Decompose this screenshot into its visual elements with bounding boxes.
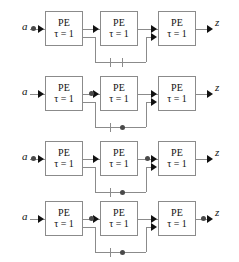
- pe-name-r3-s2: PE: [113, 148, 125, 159]
- pe-box-r2-s2: PEτ = 1: [100, 76, 138, 111]
- feedback-down-wire-3: [95, 167, 96, 192]
- junction-dot-s2s3-3: [145, 156, 150, 161]
- feedback-up-wire-3: [146, 167, 147, 192]
- pe-name-r3-s3: PE: [171, 148, 183, 159]
- feedback-tick-a-2: [110, 123, 111, 132]
- feedback-out-wire-4: [83, 227, 95, 228]
- feedback-tick-a-4: [110, 248, 111, 257]
- output-arrowhead-1: [207, 25, 213, 33]
- feedback-out-wire-2: [83, 102, 95, 103]
- output-wire-3: [196, 159, 207, 160]
- input-arrowhead-2: [38, 90, 44, 98]
- feedback-out-wire-1: [83, 37, 95, 38]
- junction-dot-input-1: [31, 26, 36, 31]
- pe-box-r2-s3: PEτ = 1: [158, 76, 196, 111]
- output-label-3: z: [215, 146, 219, 158]
- junction-dot-feedback-2: [120, 125, 125, 130]
- input-label-3: a: [22, 150, 28, 162]
- pipeline-block-diagram: aPEτ = 1PEτ = 1PEτ = 1zaPEτ = 1PEτ = 1PE…: [0, 0, 239, 262]
- pe-delay-r3-s3: τ = 1: [167, 159, 187, 170]
- output-label-2: z: [215, 81, 219, 93]
- pe-box-r4-s2: PEτ = 1: [100, 201, 138, 236]
- pe-name-r4-s2: PE: [113, 208, 125, 219]
- pe-delay-r1-s1: τ = 1: [54, 29, 74, 40]
- pe-delay-r4-s3: τ = 1: [167, 219, 187, 230]
- pe-name-r3-s1: PE: [58, 148, 70, 159]
- pe-name-r2-s3: PE: [171, 83, 183, 94]
- output-arrowhead-2: [207, 90, 213, 98]
- junction-dot-output-4: [201, 216, 206, 221]
- pe-name-r2-s2: PE: [113, 83, 125, 94]
- link-arrowhead-s1s2-4: [93, 215, 99, 223]
- pe-delay-r4-s2: τ = 1: [109, 219, 129, 230]
- pe-name-r2-s1: PE: [58, 83, 70, 94]
- feedback-arrowhead-2: [151, 98, 157, 106]
- input-arrowhead-3: [38, 155, 44, 163]
- pe-delay-r2-s1: τ = 1: [54, 94, 74, 105]
- output-arrowhead-4: [207, 215, 213, 223]
- feedback-down-wire-4: [95, 227, 96, 252]
- input-arrowhead-4: [38, 215, 44, 223]
- input-label-2: a: [22, 85, 28, 97]
- pe-delay-r4-s1: τ = 1: [54, 219, 74, 230]
- pe-name-r4-s1: PE: [58, 208, 70, 219]
- pe-name-r1-s2: PE: [113, 18, 125, 29]
- pe-delay-r2-s3: τ = 1: [167, 94, 187, 105]
- pe-box-r1-s2: PEτ = 1: [100, 11, 138, 46]
- link-arrowhead-s2s3-4: [151, 215, 157, 223]
- junction-dot-s1s2-2: [89, 91, 94, 96]
- feedback-arrowhead-4: [151, 223, 157, 231]
- output-wire-2: [196, 94, 207, 95]
- row-3: aPEτ = 1PEτ = 1PEτ = 1z: [0, 136, 239, 201]
- pe-delay-r1-s2: τ = 1: [109, 29, 129, 40]
- pe-box-r3-s3: PEτ = 1: [158, 141, 196, 176]
- feedback-tick-a-1: [110, 58, 111, 67]
- feedback-tick-b-1: [122, 58, 123, 67]
- row-2: aPEτ = 1PEτ = 1PEτ = 1z: [0, 71, 239, 136]
- pe-box-r2-s1: PEτ = 1: [45, 76, 83, 111]
- feedback-down-wire-2: [95, 102, 96, 127]
- output-arrowhead-3: [207, 155, 213, 163]
- feedback-up-wire-4: [146, 227, 147, 252]
- link-arrowhead-s2s3-1: [151, 25, 157, 33]
- output-label-4: z: [215, 206, 219, 218]
- input-label-4: a: [22, 210, 28, 222]
- row-1: aPEτ = 1PEτ = 1PEτ = 1z: [0, 6, 239, 71]
- pe-box-r4-s3: PEτ = 1: [158, 201, 196, 236]
- output-label-1: z: [215, 16, 219, 28]
- feedback-up-wire-1: [146, 37, 147, 62]
- junction-dot-feedback-3: [120, 190, 125, 195]
- pe-box-r3-s1: PEτ = 1: [45, 141, 83, 176]
- feedback-down-wire-1: [95, 37, 96, 62]
- feedback-up-wire-2: [146, 102, 147, 127]
- pe-name-r1-s1: PE: [58, 18, 70, 29]
- link-arrowhead-s2s3-2: [151, 90, 157, 98]
- link-arrowhead-s2s3-3: [151, 155, 157, 163]
- row-4: aPEτ = 1PEτ = 1PEτ = 1z: [0, 196, 239, 261]
- feedback-bus-wire-1: [95, 62, 146, 63]
- pe-box-r3-s2: PEτ = 1: [100, 141, 138, 176]
- link-arrowhead-s1s2-3: [93, 155, 99, 163]
- pe-box-r1-s1: PEτ = 1: [45, 11, 83, 46]
- output-wire-1: [196, 29, 207, 30]
- pe-delay-r3-s2: τ = 1: [109, 159, 129, 170]
- pe-name-r1-s3: PE: [171, 18, 183, 29]
- pe-delay-r3-s1: τ = 1: [54, 159, 74, 170]
- junction-dot-input-3: [31, 156, 36, 161]
- junction-dot-s1s2-4: [89, 216, 94, 221]
- pe-name-r4-s3: PE: [171, 208, 183, 219]
- pe-delay-r2-s2: τ = 1: [109, 94, 129, 105]
- junction-dot-feedback-4: [120, 250, 125, 255]
- pe-box-r1-s3: PEτ = 1: [158, 11, 196, 46]
- link-arrowhead-s1s2-1: [93, 25, 99, 33]
- feedback-arrowhead-3: [151, 163, 157, 171]
- pe-delay-r1-s3: τ = 1: [167, 29, 187, 40]
- link-arrowhead-s1s2-2: [93, 90, 99, 98]
- input-arrowhead-1: [38, 25, 44, 33]
- feedback-arrowhead-1: [151, 33, 157, 41]
- pe-box-r4-s1: PEτ = 1: [45, 201, 83, 236]
- feedback-out-wire-3: [83, 167, 95, 168]
- input-label-1: a: [22, 20, 28, 32]
